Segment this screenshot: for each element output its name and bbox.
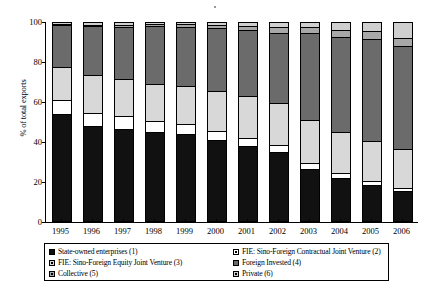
bar-segment-foreign_invested [208, 29, 226, 92]
bar-2006 [393, 22, 413, 222]
bar-segment-equity_jv [177, 87, 195, 125]
bar-1997 [114, 22, 134, 222]
x-tick-mark [92, 219, 93, 223]
legend-swatch-icon [49, 260, 55, 266]
bar-segment-equity_jv [332, 133, 350, 175]
bar-segment-state_owned [115, 130, 133, 221]
bar-segment-private [394, 23, 412, 39]
bar-segment-foreign_invested [270, 34, 288, 104]
bar-segment-equity_jv [84, 76, 102, 114]
y-tick-mark [42, 22, 46, 23]
x-tick-label: 2006 [384, 226, 420, 236]
legend-item-3: FIE: Sino-Foreign Equity Joint Venture (… [49, 258, 233, 267]
legend-label: Foreign Invested (4) [242, 258, 301, 267]
bar-segment-foreign_invested [363, 40, 381, 142]
bar-1995 [52, 22, 72, 222]
legend-item-2: FIE: Sino-Foreign Contractual Joint Vent… [233, 247, 385, 256]
chart-legend: State-owned enterprises (1)FIE: Sino-For… [44, 243, 389, 281]
x-tick-mark [309, 219, 310, 223]
bar-segment-state_owned [239, 147, 257, 221]
bar-segment-foreign_invested [84, 27, 102, 77]
x-tick-1996: 1996 [82, 223, 102, 239]
bar-segment-state_owned [363, 186, 381, 221]
scan-artifact-dot [214, 6, 216, 8]
y-axis-tick-labels: 020406080100 [14, 16, 42, 228]
bar-segment-contractual_jv [84, 114, 102, 127]
x-axis-tick-labels: 1995199619971998199920002001200220032004… [45, 223, 417, 239]
bar-2001 [238, 22, 258, 222]
bar-segment-contractual_jv [146, 122, 164, 133]
bar-segment-foreign_invested [53, 26, 71, 68]
bar-segment-state_owned [146, 133, 164, 221]
bar-segment-contractual_jv [208, 132, 226, 141]
x-tick-mark [154, 219, 155, 223]
bar-segment-equity_jv [301, 121, 319, 164]
bar-segment-equity_jv [208, 92, 226, 132]
bar-2005 [362, 22, 382, 222]
y-tick-mark [42, 62, 46, 63]
bar-2000 [207, 22, 227, 222]
x-tick-mark [247, 219, 248, 223]
bar-1999 [176, 22, 196, 222]
bar-segment-state_owned [332, 179, 350, 221]
bar-segment-private [332, 23, 350, 31]
x-tick-2002: 2002 [268, 223, 288, 239]
x-tick-2004: 2004 [330, 223, 350, 239]
x-tick-mark [278, 219, 279, 223]
bar-segment-contractual_jv [239, 139, 257, 147]
legend-swatch-icon [49, 271, 55, 277]
legend-label: FIE: Sino-Foreign Contractual Joint Vent… [242, 247, 381, 256]
plot-area: % of total exports 020406080100 19951996… [0, 0, 434, 238]
bar-segment-foreign_invested [394, 47, 412, 150]
legend-item-4: Foreign Invested (4) [233, 258, 385, 267]
bar-segment-foreign_invested [115, 28, 133, 80]
legend-swatch-icon [233, 249, 239, 255]
legend-item-5: Collective (5) [49, 269, 233, 278]
legend-swatch-icon [233, 260, 239, 266]
legend-label: State-owned enterprises (1) [58, 247, 137, 256]
bar-segment-equity_jv [270, 104, 288, 146]
bar-segment-equity_jv [363, 142, 381, 183]
bar-segment-state_owned [177, 135, 195, 221]
bar-segment-state_owned [301, 170, 319, 221]
y-tick-label: 20 [14, 178, 42, 186]
x-tick-1998: 1998 [144, 223, 164, 239]
bar-segment-equity_jv [239, 97, 257, 139]
axes [45, 22, 418, 223]
y-tick-label: 40 [14, 138, 42, 146]
bar-2003 [300, 22, 320, 222]
bar-segment-equity_jv [115, 80, 133, 117]
bar-segment-contractual_jv [270, 146, 288, 153]
legend-label: FIE: Sino-Foreign Equity Joint Venture (… [58, 258, 182, 267]
x-tick-2005: 2005 [361, 223, 381, 239]
y-tick-label: 80 [14, 58, 42, 66]
x-tick-mark [402, 219, 403, 223]
bar-segment-foreign_invested [332, 38, 350, 133]
bar-1996 [83, 22, 103, 222]
bar-segment-equity_jv [394, 150, 412, 190]
bar-segment-foreign_invested [146, 27, 164, 85]
bar-segment-foreign_invested [239, 31, 257, 97]
bar-group [46, 22, 418, 222]
x-tick-mark [216, 219, 217, 223]
x-tick-2000: 2000 [206, 223, 226, 239]
x-tick-mark [61, 219, 62, 223]
bar-segment-private [363, 23, 381, 32]
bar-1998 [145, 22, 165, 222]
bar-segment-equity_jv [53, 68, 71, 102]
bar-segment-collective [394, 39, 412, 47]
y-tick-label: 100 [14, 18, 42, 26]
x-tick-mark [340, 219, 341, 223]
bar-segment-state_owned [53, 115, 71, 221]
legend-label: Collective (5) [58, 269, 98, 278]
legend-item-1: State-owned enterprises (1) [49, 247, 233, 256]
x-tick-2006: 2006 [392, 223, 412, 239]
y-tick-label: 60 [14, 98, 42, 106]
x-tick-2001: 2001 [237, 223, 257, 239]
bar-segment-state_owned [270, 153, 288, 221]
y-tick-mark [42, 102, 46, 103]
x-tick-1995: 1995 [51, 223, 71, 239]
bar-segment-foreign_invested [301, 34, 319, 121]
bar-2004 [331, 22, 351, 222]
bar-segment-collective [363, 32, 381, 40]
